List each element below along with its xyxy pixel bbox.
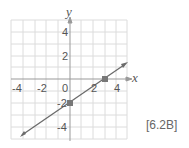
reference-label: [6.2B] [146,118,177,132]
y-tick: 2 [62,50,68,62]
x-tick: -2 [37,82,47,94]
x-tick: 0 [62,82,68,94]
y-axis-label: y [66,4,72,20]
x-axis-label: x [132,70,138,86]
x-tick: 4 [114,82,120,94]
x-tick: 2 [91,82,97,94]
axes [11,17,132,141]
x-tick: -4 [12,82,22,94]
point-0-neg2 [67,100,73,106]
y-tick: -2 [57,97,67,109]
y-tick: 4 [62,26,68,38]
y-tick: -4 [57,121,67,133]
point-3-0 [102,76,108,82]
